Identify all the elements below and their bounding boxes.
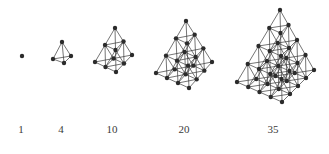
node-dot	[276, 64, 280, 68]
node-dot	[60, 40, 64, 44]
node-dot	[174, 36, 178, 40]
edge-line	[259, 46, 260, 69]
edge-line	[297, 40, 306, 55]
edge-line	[186, 21, 187, 43]
node-dot	[164, 53, 168, 57]
edge-line	[267, 61, 268, 84]
node-dot	[257, 90, 261, 94]
edge-line	[95, 45, 105, 62]
node-dot	[287, 69, 291, 73]
node-dot	[62, 61, 66, 65]
node-dot	[113, 26, 117, 30]
edge-line	[166, 38, 176, 55]
edge-line	[280, 10, 281, 33]
edge-line	[278, 43, 279, 66]
count-label: 4	[58, 123, 64, 135]
node-dot	[187, 86, 191, 90]
node-dot	[202, 68, 206, 72]
node-dot	[210, 60, 214, 64]
edge-line	[116, 50, 117, 72]
node-dot	[122, 61, 126, 65]
node-dot	[286, 23, 290, 27]
node-dot	[293, 71, 297, 75]
node-dot	[183, 72, 187, 76]
node-dot	[51, 57, 55, 61]
node-dot	[295, 38, 299, 42]
edge-line	[203, 48, 204, 70]
node-dot	[303, 53, 307, 57]
edge-line	[237, 64, 248, 82]
tetrahedron-figure-35	[235, 8, 316, 104]
node-dot	[295, 61, 299, 65]
node-dot	[184, 19, 188, 23]
edge-line	[105, 45, 106, 67]
edge-line	[248, 46, 259, 64]
edge-line	[259, 28, 270, 46]
edge-line	[306, 55, 307, 78]
node-dot	[103, 65, 107, 69]
node-dot	[165, 76, 169, 80]
edge-line	[166, 56, 167, 78]
node-dot	[154, 71, 158, 75]
node-dot	[304, 76, 308, 80]
node-dot	[113, 48, 117, 52]
edge-line	[269, 10, 280, 28]
node-dot	[176, 81, 180, 85]
tetrahedron-figure-10	[93, 26, 134, 74]
node-dot	[312, 68, 316, 72]
node-dot	[194, 77, 198, 81]
node-dot	[114, 70, 118, 74]
node-dot	[235, 80, 239, 84]
edge-line	[269, 28, 270, 51]
node-dot	[273, 74, 277, 78]
edge-line	[53, 42, 62, 59]
node-dot	[186, 63, 190, 67]
node-dot	[130, 53, 134, 57]
node-dot	[192, 32, 196, 36]
edge-line	[286, 58, 287, 81]
node-dot	[257, 67, 261, 71]
edge-line	[280, 10, 289, 25]
tetrahedron-figure-1	[20, 54, 24, 58]
node-dot	[121, 39, 125, 43]
node-dot	[93, 60, 97, 64]
edge-line	[195, 35, 204, 49]
edge-line	[203, 48, 212, 62]
edge-line	[289, 25, 298, 40]
count-label: 10	[107, 123, 118, 135]
edge-line	[176, 38, 177, 60]
node-dot	[246, 85, 250, 89]
edge-line	[105, 28, 115, 45]
node-dot	[288, 92, 292, 96]
edge-line	[115, 28, 116, 50]
node-dot	[256, 44, 260, 48]
node-dot	[20, 54, 24, 58]
node-dot	[278, 31, 282, 35]
edge-line	[176, 21, 186, 38]
node-dot	[69, 54, 73, 58]
tetrahedron-figure-4	[51, 40, 73, 65]
node-dot	[201, 46, 205, 50]
node-dot	[279, 54, 283, 58]
node-dot	[267, 26, 271, 30]
tetrahedral-numbers-diagram	[0, 0, 329, 154]
node-dot	[278, 8, 282, 12]
node-dot	[276, 41, 280, 45]
node-dot	[265, 82, 269, 86]
count-label: 1	[18, 123, 24, 135]
node-dot	[175, 58, 179, 62]
edge-line	[297, 40, 298, 63]
node-dot	[268, 49, 272, 53]
count-label: 20	[179, 123, 190, 135]
node-dot	[287, 46, 291, 50]
node-dot	[279, 77, 283, 81]
node-dot	[269, 95, 273, 99]
node-dot	[265, 59, 269, 63]
edge-line	[124, 42, 125, 64]
node-dot	[268, 72, 272, 76]
edge-line	[115, 28, 124, 42]
node-dot	[246, 62, 250, 66]
count-label: 35	[268, 123, 279, 135]
node-dot	[284, 56, 288, 60]
node-dot	[296, 84, 300, 88]
